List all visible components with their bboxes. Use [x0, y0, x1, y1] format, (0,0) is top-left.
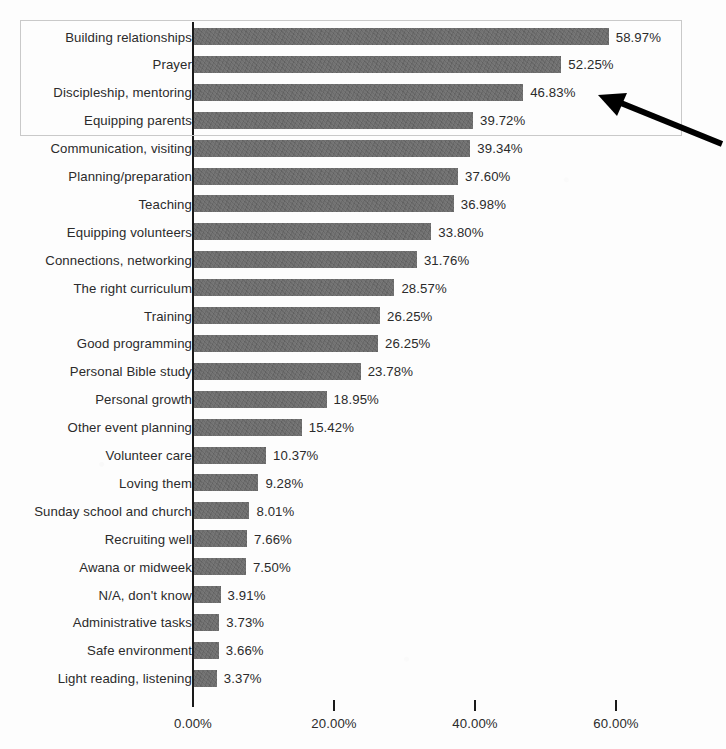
bar-value-label: 7.66%: [254, 531, 292, 546]
category-label: Discipleship, mentoring: [53, 85, 192, 100]
category-label: Building relationships: [65, 29, 192, 44]
bar: [193, 279, 394, 296]
category-label: Awana or midweek: [79, 559, 192, 574]
bar: [193, 447, 266, 464]
category-label: Good programming: [77, 336, 192, 351]
bar-row: Sunday school and church8.01%: [0, 502, 726, 519]
bar: [193, 586, 221, 603]
category-label: Planning/preparation: [68, 169, 192, 184]
category-label: Loving them: [119, 475, 192, 490]
bar-value-label: 26.25%: [387, 308, 432, 323]
category-label: Teaching: [138, 196, 192, 211]
bar-value-label: 18.95%: [334, 392, 379, 407]
bar: [193, 642, 219, 659]
bar: [193, 502, 249, 519]
bar-value-label: 3.37%: [224, 671, 262, 686]
x-axis-tick-label: 60.00%: [593, 716, 638, 731]
bar-value-label: 39.72%: [480, 113, 525, 128]
category-label: Communication, visiting: [50, 141, 192, 156]
bar-row: Connections, networking31.76%: [0, 251, 726, 268]
bar-row: Teaching36.98%: [0, 195, 726, 212]
bar: [193, 223, 431, 240]
bar-value-label: 23.78%: [368, 364, 413, 379]
bar-value-label: 8.01%: [256, 503, 294, 518]
x-axis-tick-label: 20.00%: [311, 716, 356, 731]
bar-row: Administrative tasks3.73%: [0, 614, 726, 631]
bar: [193, 168, 458, 185]
category-label: Other event planning: [68, 420, 192, 435]
bar: [193, 140, 470, 157]
bar-value-label: 31.76%: [424, 252, 469, 267]
bar-value-label: 7.50%: [253, 559, 291, 574]
bar-row: Volunteer care10.37%: [0, 447, 726, 464]
category-label: Recruiting well: [105, 531, 192, 546]
category-label: Equipping volunteers: [67, 224, 192, 239]
bar: [193, 670, 217, 687]
bar: [193, 251, 417, 268]
category-label: Sunday school and church: [34, 503, 192, 518]
bar: [193, 112, 473, 129]
bar-value-label: 26.25%: [385, 336, 430, 351]
bar-row: Personal growth18.95%: [0, 391, 726, 408]
bar-row: Prayer52.25%: [0, 56, 726, 73]
bar-row: Good programming26.25%: [0, 335, 726, 352]
x-axis-tick: [474, 700, 476, 711]
category-label: Safe environment: [87, 643, 192, 658]
bar-row: Planning/preparation37.60%: [0, 168, 726, 185]
bar-value-label: 39.34%: [477, 141, 522, 156]
bar-value-label: 9.28%: [265, 475, 303, 490]
bar: [193, 419, 302, 436]
x-axis-tick-label: 0.00%: [174, 716, 212, 731]
category-label: Personal growth: [95, 392, 192, 407]
bar: [193, 614, 219, 631]
bar-value-label: 10.37%: [273, 448, 318, 463]
bar: [193, 474, 258, 491]
bar-value-label: 33.80%: [438, 224, 483, 239]
bar: [193, 391, 327, 408]
bar-row: Training26.25%: [0, 307, 726, 324]
bar: [193, 28, 609, 45]
bar-row: Equipping volunteers33.80%: [0, 223, 726, 240]
bar: [193, 56, 561, 73]
bar: [193, 558, 246, 575]
category-label: Connections, networking: [45, 252, 192, 267]
category-label: The right curriculum: [73, 280, 192, 295]
category-label: Light reading, listening: [58, 671, 192, 686]
bar-value-label: 46.83%: [530, 85, 575, 100]
bar-row: Light reading, listening3.37%: [0, 670, 726, 687]
category-label: Training: [144, 308, 192, 323]
bar-value-label: 52.25%: [568, 57, 613, 72]
bar: [193, 335, 378, 352]
bar-row: N/A, don't know3.91%: [0, 586, 726, 603]
bar-value-label: 3.91%: [228, 587, 266, 602]
bar: [193, 530, 247, 547]
bar-row: Personal Bible study23.78%: [0, 363, 726, 380]
bar-row: Recruiting well7.66%: [0, 530, 726, 547]
bar: [193, 84, 523, 101]
category-label: Volunteer care: [106, 448, 192, 463]
bar-value-label: 36.98%: [461, 196, 506, 211]
bar-value-label: 58.97%: [616, 29, 661, 44]
bar-row: Safe environment3.66%: [0, 642, 726, 659]
x-axis-tick-label: 40.00%: [452, 716, 497, 731]
bar-value-label: 3.73%: [226, 615, 264, 630]
plot-area: Building relationships58.97%Prayer52.25%…: [0, 0, 726, 749]
bar-row: Equipping parents39.72%: [0, 112, 726, 129]
value-axis-line: [192, 22, 194, 707]
category-label: Administrative tasks: [73, 615, 192, 630]
category-label: Personal Bible study: [70, 364, 192, 379]
bar-row: Loving them9.28%: [0, 474, 726, 491]
bar-row: Awana or midweek7.50%: [0, 558, 726, 575]
bar-chart: Building relationships58.97%Prayer52.25%…: [0, 0, 726, 749]
bar: [193, 195, 454, 212]
bar-value-label: 15.42%: [309, 420, 354, 435]
x-axis-tick: [333, 700, 335, 711]
bar-row: The right curriculum28.57%: [0, 279, 726, 296]
bar-row: Other event planning15.42%: [0, 419, 726, 436]
bar-value-label: 28.57%: [401, 280, 446, 295]
bar-row: Communication, visiting39.34%: [0, 140, 726, 157]
bar-row: Building relationships58.97%: [0, 28, 726, 45]
category-label: Equipping parents: [84, 113, 192, 128]
bar: [193, 307, 380, 324]
x-axis-tick: [615, 700, 617, 711]
